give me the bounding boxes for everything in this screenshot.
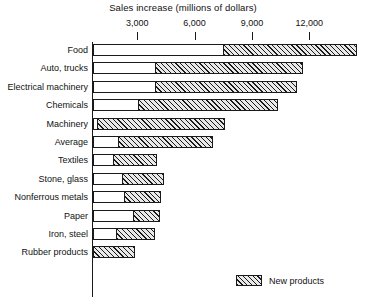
category-label: Paper <box>0 210 88 222</box>
bar-row: Chemicals <box>0 97 366 115</box>
bar-row: Electrical machinery <box>0 79 366 97</box>
bar <box>93 99 278 111</box>
bar-segment-new-products <box>97 119 224 129</box>
category-label: Machinery <box>0 118 88 130</box>
bar <box>93 62 303 74</box>
bar-row: Iron, steel <box>0 226 366 244</box>
legend-label-new-products: New products <box>269 276 324 286</box>
bar-segment-existing-products <box>94 211 134 221</box>
x-tick-mark <box>195 32 196 40</box>
bar <box>93 81 297 93</box>
category-label: Average <box>0 136 88 148</box>
bar-rows: FoodAuto, trucksElectrical machineryChem… <box>0 42 366 263</box>
bar-row: Paper <box>0 208 366 226</box>
category-label: Rubber products <box>0 246 88 258</box>
bar <box>93 228 155 240</box>
bar-row: Nonferrous metals <box>0 189 366 207</box>
bar-row: Food <box>0 42 366 60</box>
bar-segment-existing-products <box>94 45 224 55</box>
bar-row: Machinery <box>0 116 366 134</box>
category-label: Nonferrous metals <box>0 191 88 203</box>
category-label: Stone, glass <box>0 173 88 185</box>
bar-segment-existing-products <box>94 100 139 110</box>
category-label: Electrical machinery <box>0 81 88 93</box>
bar-segment-new-products <box>124 192 160 202</box>
bar <box>93 154 157 166</box>
bar <box>93 173 164 185</box>
bar-segment-new-products <box>118 137 212 147</box>
x-tick-label: 9,000 <box>241 18 264 28</box>
bar <box>93 210 160 222</box>
bar <box>93 136 213 148</box>
bar <box>93 191 161 203</box>
bar-row: Textiles <box>0 152 366 170</box>
bar <box>93 44 357 56</box>
bar-segment-existing-products <box>94 174 123 184</box>
bar-row: Average <box>0 134 366 152</box>
bar-segment-existing-products <box>94 82 156 92</box>
bar <box>93 246 135 258</box>
category-label: Textiles <box>0 154 88 166</box>
bar-segment-existing-products <box>94 63 156 73</box>
bar-segment-new-products <box>116 229 154 239</box>
bar-segment-existing-products <box>94 192 125 202</box>
x-tick-label: 6,000 <box>183 18 206 28</box>
bar-row: Auto, trucks <box>0 60 366 78</box>
category-label: Chemicals <box>0 99 88 111</box>
bar-chart: Sales increase (millions of dollars) 3,0… <box>0 0 366 307</box>
bar-segment-new-products <box>138 100 277 110</box>
bar-segment-new-products <box>155 63 302 73</box>
bar-segment-new-products <box>122 174 163 184</box>
bar-segment-existing-products <box>94 137 119 147</box>
category-label: Auto, trucks <box>0 62 88 74</box>
bar-segment-new-products <box>223 45 356 55</box>
bar-segment-new-products <box>155 82 296 92</box>
category-label: Food <box>0 44 88 56</box>
bar-segment-new-products <box>113 155 156 165</box>
x-tick-label: 12,000 <box>295 18 323 28</box>
bar <box>93 118 225 130</box>
x-tick-mark <box>309 32 310 40</box>
x-tick-label: 3,000 <box>126 18 149 28</box>
bar-segment-existing-products <box>94 229 117 239</box>
bar-segment-existing-products <box>94 155 114 165</box>
bar-segment-new-products <box>93 247 134 257</box>
bar-segment-new-products <box>133 211 159 221</box>
chart-legend: New products <box>236 275 324 286</box>
bar-row: Stone, glass <box>0 171 366 189</box>
x-tick-mark <box>137 32 138 40</box>
x-tick-mark <box>252 32 253 40</box>
bar-row: Rubber products <box>0 244 366 262</box>
legend-swatch-new-products <box>236 275 262 286</box>
category-label: Iron, steel <box>0 228 88 240</box>
